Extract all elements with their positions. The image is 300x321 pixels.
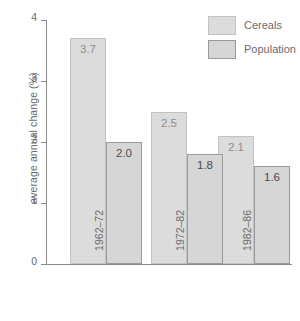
bar-value-label: 2.0 — [107, 148, 141, 160]
y-tick-label-1: 1 — [31, 195, 37, 206]
legend-swatch-icon — [208, 40, 236, 59]
y-tick-label-3: 3 — [31, 73, 37, 84]
y-axis-line — [46, 20, 47, 265]
y-tick-0: 0 — [41, 264, 46, 265]
legend-label: Cereals — [244, 19, 282, 31]
bar-population-1965-70[interactable]: 2.0 — [106, 142, 142, 264]
y-tick-4: 4 — [41, 20, 46, 21]
x-label-1982-86: 1982–86 — [241, 210, 253, 270]
legend-item-cereals[interactable]: Cereals — [208, 14, 296, 36]
bar-value-label: 3.7 — [71, 44, 105, 56]
y-tick-1: 1 — [41, 203, 46, 204]
y-tick-label-4: 4 — [31, 12, 37, 23]
y-tick-2: 2 — [41, 142, 46, 143]
legend-label: Population — [244, 43, 296, 55]
legend: Cereals Population — [208, 14, 296, 62]
bar-value-label: 2.1 — [219, 142, 253, 154]
bar-value-label: 2.5 — [152, 118, 186, 130]
bar-chart: average annual change (%) 4 3 2 1 0 3.7 … — [0, 0, 300, 321]
bar-population-1985-90[interactable]: 1.6 — [254, 166, 290, 264]
legend-item-population[interactable]: Population — [208, 38, 296, 60]
legend-swatch-icon — [208, 16, 236, 35]
x-label-1972-82: 1972–82 — [174, 210, 186, 270]
bar-value-label: 1.8 — [188, 160, 222, 172]
y-tick-label-0: 0 — [31, 256, 37, 267]
bar-population-1975-80[interactable]: 1.8 — [187, 154, 223, 264]
x-label-1962-72: 1962–72 — [93, 210, 105, 270]
bar-value-label: 1.6 — [255, 172, 289, 184]
y-tick-label-2: 2 — [31, 134, 37, 145]
y-tick-3: 3 — [41, 81, 46, 82]
x-axis-line — [46, 264, 292, 265]
